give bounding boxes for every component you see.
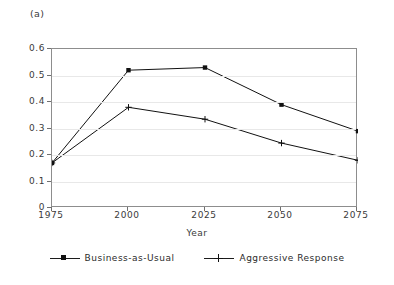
y-tick-label: 0.1	[29, 176, 45, 186]
data-point-marker	[126, 68, 130, 72]
gridline	[52, 102, 356, 103]
legend-label: Business-as-Usual	[85, 253, 175, 263]
series-markers-aggressive-response	[52, 104, 358, 166]
data-point-marker	[356, 129, 358, 133]
y-tick-label: 0.3	[29, 123, 45, 133]
gridline	[52, 76, 356, 77]
series-line-business-as-usual	[52, 68, 358, 163]
y-tick-label: 0.5	[29, 70, 45, 80]
data-point-marker	[279, 102, 283, 106]
y-tick-label: 0.4	[29, 96, 45, 106]
x-axis-tick-labels: 1975 2000 2025 2050 2075	[0, 210, 394, 224]
plot-area	[51, 48, 357, 207]
x-axis-label: Year	[0, 228, 394, 238]
y-tick-label: 0.2	[29, 149, 45, 159]
gridline	[52, 155, 356, 156]
x-tick-label: 1975	[38, 210, 63, 220]
gridline	[52, 182, 356, 183]
legend-item-aggressive-response: Aggressive Response	[204, 253, 344, 263]
x-tick-label: 2075	[343, 210, 368, 220]
x-tick-label: 2025	[191, 210, 216, 220]
x-tick-label: 2050	[267, 210, 292, 220]
legend: Business-as-Usual Aggressive Response	[0, 253, 394, 263]
gridline	[52, 129, 356, 130]
legend-label: Aggressive Response	[239, 253, 344, 263]
x-tick-label: 2000	[114, 210, 139, 220]
legend-marker-square-icon	[50, 253, 80, 263]
y-tick-label: 0.6	[29, 43, 45, 53]
data-point-marker	[203, 65, 207, 69]
figure-chart-a: (a) 0 0.1 0.2 0.3 0.4 0.5 0.6 197	[0, 0, 394, 285]
legend-marker-plus-icon	[204, 253, 234, 263]
y-axis-tick-labels: 0 0.1 0.2 0.3 0.4 0.5 0.6	[0, 48, 45, 207]
legend-item-business-as-usual: Business-as-Usual	[50, 253, 175, 263]
panel-label: (a)	[30, 8, 44, 19]
